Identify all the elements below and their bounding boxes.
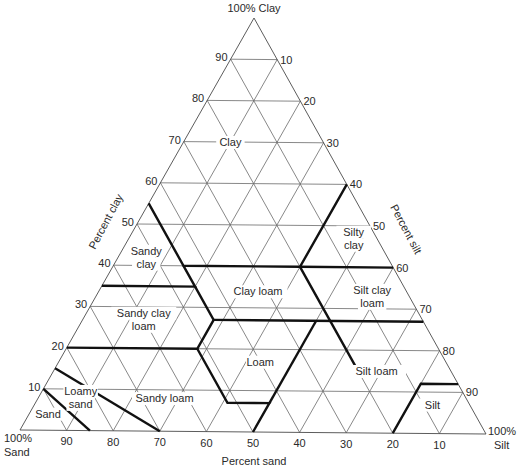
class-boundary-line — [300, 267, 393, 268]
tick-label-clay: 40 — [98, 257, 110, 269]
tick-label-sand: 50 — [247, 437, 259, 449]
class-boundary-line — [300, 267, 356, 367]
tick-label-clay: 30 — [75, 298, 87, 310]
class-label-loamy-sand: Loamy — [64, 385, 98, 397]
tick-label-clay: 90 — [215, 51, 227, 63]
class-label-clay-loam: Clay loam — [234, 285, 283, 297]
class-label-sandy-loam: Sandy loam — [135, 392, 193, 404]
corner-label-silt-2: Silt — [494, 439, 509, 451]
class-label-silty-clay: Silty — [343, 226, 364, 238]
tick-label-silt: 80 — [443, 345, 455, 357]
class-label-silt-loam: Silt loam — [356, 365, 398, 377]
class-label-sandy-clay-loam: Sandy clay — [117, 307, 171, 319]
tick-label-sand: 90 — [60, 435, 72, 447]
class-boundary-line — [214, 320, 424, 322]
class-label-sandy-clay: clay — [136, 258, 156, 270]
tick-label-silt: 30 — [327, 137, 339, 149]
axis-title-silt: Percent silt — [388, 202, 424, 256]
class-label-silty-clay: clay — [344, 239, 364, 251]
class-label-loam: Loam — [246, 356, 274, 368]
tick-label-clay: 60 — [145, 175, 157, 187]
tick-label-silt: 60 — [396, 262, 408, 274]
tick-label-silt: 90 — [466, 386, 478, 398]
tick-label-sand: 70 — [154, 436, 166, 448]
class-label-loamy-sand: sand — [69, 398, 93, 410]
tick-label-silt: 10 — [280, 54, 292, 66]
axis-title-sand: Percent sand — [222, 455, 287, 467]
tick-label-clay: 80 — [192, 92, 204, 104]
tick-label-sand: 40 — [293, 437, 305, 449]
corner-label-sand-2: Sand — [4, 446, 30, 458]
class-label-silt-clay-loam: Silt clay — [353, 284, 391, 296]
soil-texture-triangle: 9080706050403020101020304050607080909080… — [0, 0, 517, 473]
class-label-sandy-clay-loam: loam — [132, 320, 156, 332]
tick-label-clay: 20 — [52, 340, 64, 352]
grid-line-clay — [43, 389, 462, 393]
class-label-silt-clay-loam: loam — [360, 297, 384, 309]
class-label-clay: Clay — [219, 136, 242, 148]
tick-label-sand: 10 — [433, 439, 445, 451]
triangle-outline — [20, 18, 486, 434]
tick-label-clay: 50 — [122, 216, 134, 228]
tick-label-sand: 30 — [340, 438, 352, 450]
class-label-silt: Silt — [425, 399, 440, 411]
tick-label-sand: 80 — [107, 436, 119, 448]
corner-label-sand-1: 100% — [4, 432, 32, 444]
corner-label-silt-1: 100% — [488, 425, 516, 437]
axis-title-clay: Percent clay — [86, 191, 125, 251]
corner-label-clay: 100% Clay — [227, 2, 281, 14]
class-label-sand: Sand — [35, 408, 61, 420]
tick-label-silt: 40 — [350, 178, 362, 190]
tick-label-sand: 20 — [387, 438, 399, 450]
grid-line-clay — [137, 224, 370, 226]
tick-label-clay: 10 — [28, 381, 40, 393]
texture-class-labels: ClaySandyclaySiltyclayClay loamSilt clay… — [34, 136, 447, 421]
tick-label-silt: 20 — [303, 95, 315, 107]
tick-label-sand: 60 — [200, 437, 212, 449]
grid-line-sand — [231, 59, 440, 433]
grid-line-clay — [207, 100, 300, 101]
tick-label-silt: 70 — [419, 303, 431, 315]
tick-label-silt: 50 — [373, 220, 385, 232]
tick-label-clay: 70 — [169, 134, 181, 146]
grid-line-clay — [184, 142, 324, 143]
class-label-sandy-clay: Sandy — [131, 245, 163, 257]
